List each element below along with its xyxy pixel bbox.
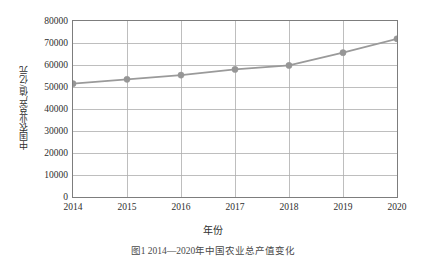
y-tick-label: 0 bbox=[14, 192, 68, 202]
y-tick-label: 20000 bbox=[14, 148, 68, 158]
line-chart-svg bbox=[73, 21, 397, 197]
y-tick-label: 40000 bbox=[14, 104, 68, 114]
y-tick-label: 10000 bbox=[14, 170, 68, 180]
data-point-marker bbox=[124, 76, 130, 82]
x-tick-label: 2017 bbox=[226, 202, 245, 212]
plot-area bbox=[72, 20, 398, 198]
x-tick-label: 2019 bbox=[334, 202, 353, 212]
figure-caption: 图1 2014—2020年中国农业总产值变化 bbox=[0, 243, 426, 257]
x-tick-label: 2020 bbox=[388, 202, 407, 212]
x-axis-title: 年份 bbox=[0, 222, 426, 237]
x-tick-label: 2014 bbox=[64, 202, 83, 212]
x-tick-label: 2018 bbox=[280, 202, 299, 212]
y-tick-label: 80000 bbox=[14, 16, 68, 26]
data-point-marker bbox=[286, 62, 292, 68]
x-tick-label: 2016 bbox=[172, 202, 191, 212]
y-tick-label: 50000 bbox=[14, 82, 68, 92]
y-tick-label: 60000 bbox=[14, 60, 68, 70]
y-tick-label: 70000 bbox=[14, 38, 68, 48]
data-point-marker bbox=[232, 66, 238, 72]
y-axis-tick-labels: 0100002000030000400005000060000700008000… bbox=[12, 0, 68, 255]
data-point-marker bbox=[178, 72, 184, 78]
data-point-marker bbox=[73, 81, 76, 87]
data-point-marker bbox=[340, 50, 346, 56]
data-point-marker bbox=[394, 36, 397, 42]
y-tick-label: 30000 bbox=[14, 126, 68, 136]
x-tick-label: 2015 bbox=[118, 202, 137, 212]
